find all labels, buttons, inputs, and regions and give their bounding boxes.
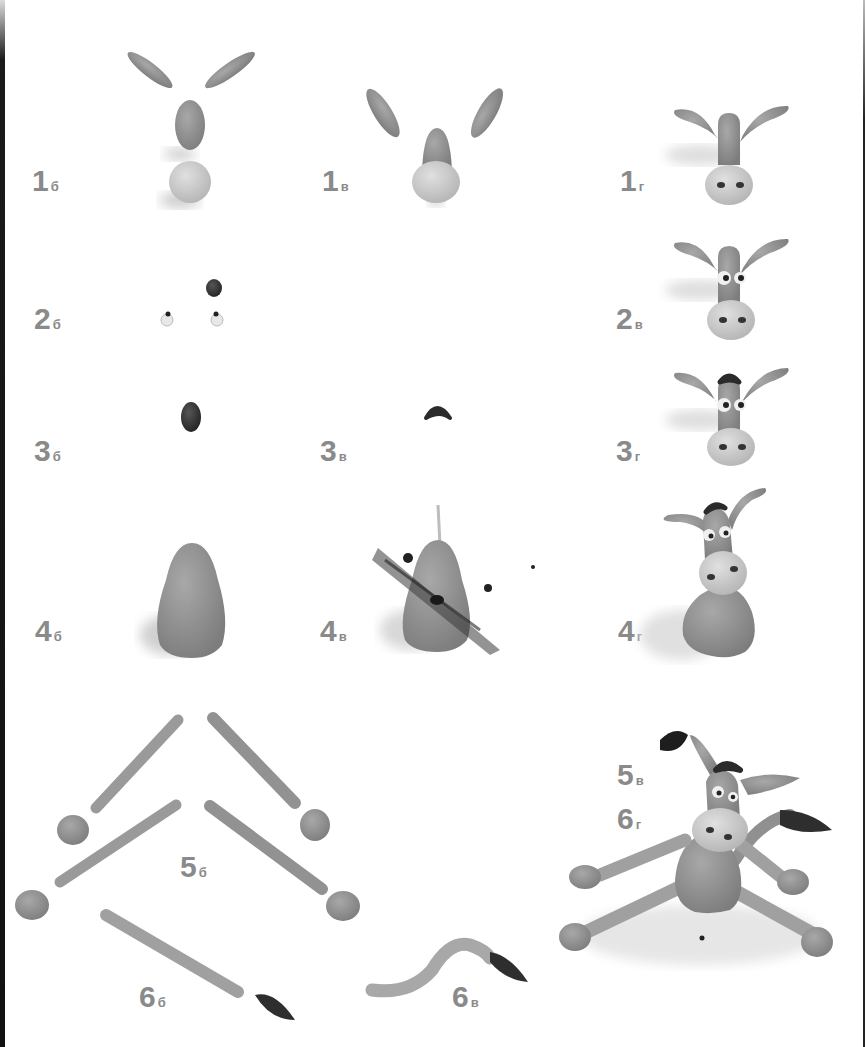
photo-1v <box>361 84 509 206</box>
photo-2b <box>161 279 223 326</box>
photo-6b <box>106 915 295 1020</box>
craft-photos <box>0 0 865 1047</box>
photo-1g <box>665 106 789 205</box>
photo-4g <box>640 488 766 660</box>
photo-3g <box>665 368 789 466</box>
photo-6g-finished-donkey <box>559 731 833 965</box>
photo-2v <box>665 239 789 340</box>
photo-3v <box>426 408 450 418</box>
photo-5b <box>15 718 360 921</box>
photo-4b <box>140 543 225 658</box>
photo-1b <box>124 47 259 208</box>
photo-4v <box>372 505 535 655</box>
photo-6v <box>372 944 528 991</box>
photo-3b <box>181 402 201 432</box>
